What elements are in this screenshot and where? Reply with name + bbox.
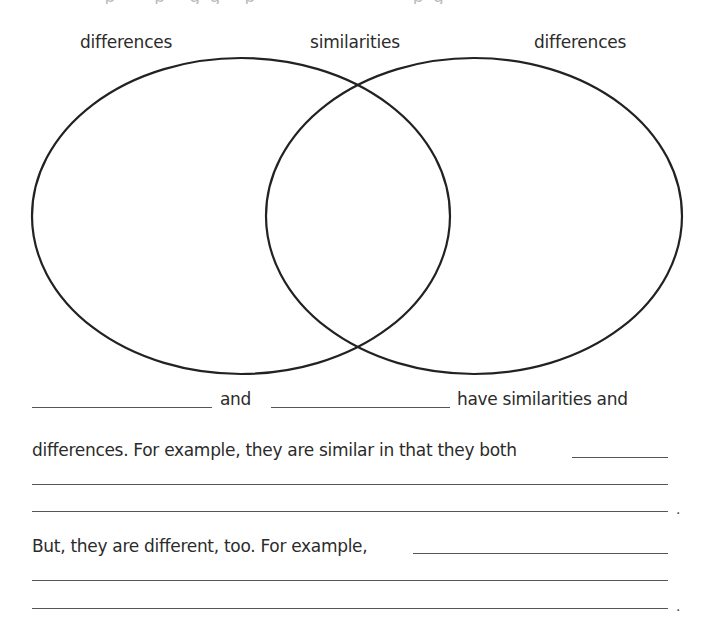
text-similar-sentence: differences. For example, they are simil… (32, 440, 517, 460)
blank-similarity-3[interactable] (32, 511, 668, 512)
period-2: . (676, 599, 680, 613)
blank-difference-2[interactable] (32, 580, 668, 581)
blank-similarity-2[interactable] (32, 484, 668, 485)
text-different-sentence: But, they are different, too. For exampl… (32, 536, 367, 556)
blank-similarity-1[interactable] (572, 457, 668, 458)
venn-diagram (0, 0, 701, 390)
venn-right-circle[interactable] (266, 58, 682, 374)
period-1: . (676, 502, 680, 516)
blank-difference-3[interactable] (32, 608, 668, 609)
text-and: and (220, 389, 251, 409)
venn-left-circle[interactable] (32, 58, 450, 374)
blank-subject-1[interactable] (32, 407, 212, 408)
text-have-similarities: have similarities and (457, 389, 628, 409)
blank-subject-2[interactable] (271, 407, 450, 408)
blank-difference-1[interactable] (413, 553, 668, 554)
